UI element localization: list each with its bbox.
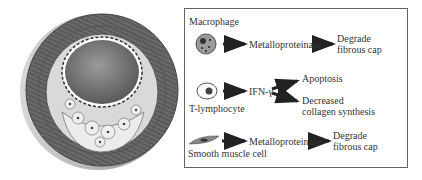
arrow-icon bbox=[272, 93, 297, 101]
smooth-muscle-cell-label: Smooth muscle cell bbox=[188, 148, 267, 159]
macrophage-label: Macrophage bbox=[189, 16, 239, 27]
mechanism-box: Macrophage Metalloproteinase Degrade fib… bbox=[184, 8, 408, 168]
macrophage-icon bbox=[196, 34, 216, 54]
decreased-label: Decreased bbox=[302, 95, 344, 106]
metalloproteinase-label: Metalloproteinase bbox=[249, 39, 321, 50]
degrade-label-2: Degrade bbox=[333, 130, 367, 141]
arrow-icon bbox=[272, 81, 297, 89]
smooth-muscle-cell-icon bbox=[189, 136, 219, 144]
apoptosis-label: Apoptosis bbox=[302, 73, 343, 84]
collagen-synthesis-label: collagen synthesis bbox=[302, 106, 375, 117]
t-lymphocyte-icon bbox=[197, 83, 217, 99]
artery-illustration bbox=[0, 0, 185, 180]
fibrous-cap-label: fibrous cap bbox=[337, 44, 382, 55]
ifn-gamma-label: IFN-γ bbox=[249, 86, 273, 97]
metalloproteinase-label-2: Metalloproteinase bbox=[249, 136, 321, 147]
t-lymphocyte-label: T-lymphocyte bbox=[189, 103, 245, 114]
degrade-label: Degrade bbox=[337, 33, 371, 44]
artery-cross-section bbox=[0, 0, 185, 180]
fibrous-cap-label-2: fibrous cap bbox=[333, 141, 378, 152]
